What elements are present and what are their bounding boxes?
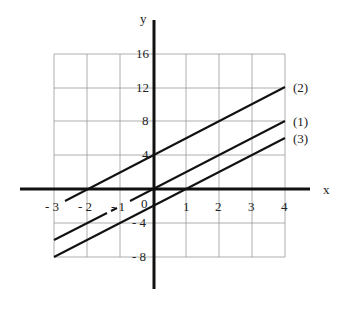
x-tick: 4 xyxy=(281,199,288,214)
y-tick: - 8 xyxy=(132,249,146,264)
line-3 xyxy=(54,138,285,257)
x-tick: - 1 xyxy=(111,199,125,214)
line-2-label: (2) xyxy=(293,80,308,95)
line-1-seg-a xyxy=(54,213,107,240)
y-tick: 12 xyxy=(136,80,149,95)
coordinate-plot: y x 16 12 8 4 - 4 - 8 - 3 - 2 - 1 0 1 2 … xyxy=(0,0,352,311)
y-axis-label: y xyxy=(140,11,147,26)
x-axis-label: x xyxy=(323,182,330,197)
line-1-label: (1) xyxy=(293,114,308,129)
y-tick: 8 xyxy=(142,113,149,128)
y-tick: 4 xyxy=(142,147,149,162)
x-tick: - 2 xyxy=(78,199,92,214)
x-tick: - 3 xyxy=(45,199,59,214)
x-tick: 2 xyxy=(215,199,222,214)
y-tick: 16 xyxy=(136,46,150,61)
x-tick: 3 xyxy=(248,199,255,214)
x-tick: 0 xyxy=(141,196,148,211)
y-tick: - 4 xyxy=(132,215,147,230)
x-tick: 1 xyxy=(183,199,190,214)
line-3-label: (3) xyxy=(293,131,308,146)
